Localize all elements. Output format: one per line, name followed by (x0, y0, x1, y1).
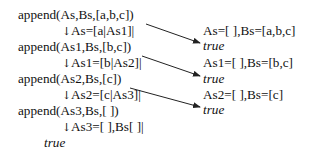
binding-2: As1=[b|As2]| (71, 55, 142, 70)
branch-result-1: true (203, 38, 224, 53)
branch-binding-3: As2=[ ],Bs=[c] (203, 87, 283, 102)
goal-append-4: append(As3,Bs,[ ]) (18, 103, 119, 118)
goal-append-1: append(As,Bs,[a,b,c]) (18, 7, 134, 22)
branch-binding-2: As1=[ ],Bs=[b,c] (203, 55, 293, 70)
goal-append-2: append(As1,Bs,[b,c]) (18, 39, 131, 54)
binding-1: As=[a|As1]| (71, 23, 134, 38)
branch-result-3: true (203, 102, 224, 117)
down-arrow-icon: ↓ (62, 58, 71, 69)
down-arrow-icon: ↓ (62, 122, 71, 133)
result-true: true (44, 135, 65, 150)
down-arrow-icon: ↓ (62, 26, 71, 37)
branch-binding-1: As=[ ],Bs=[a,b,c] (203, 23, 296, 38)
goal-append-3: append(As2,Bs,[c]) (18, 71, 121, 86)
binding-3: As2=[c|As3]| (71, 87, 141, 102)
branch-arrow-1 (146, 24, 200, 43)
branch-result-2: true (203, 71, 224, 86)
down-arrow-icon: ↓ (62, 90, 71, 101)
branch-arrow-2 (142, 56, 200, 76)
binding-4: As3=[ ],Bs[ ]| (71, 119, 144, 134)
